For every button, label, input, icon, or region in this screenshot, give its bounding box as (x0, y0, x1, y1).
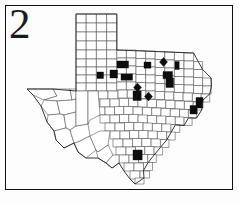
figure-border (5, 5, 233, 190)
figure-panel: 2 (0, 0, 239, 202)
panel-number-label: 2 (9, 2, 31, 45)
